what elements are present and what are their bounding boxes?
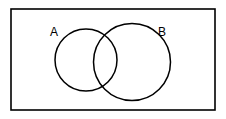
set-label-b: B: [158, 25, 166, 39]
set-label-a: A: [50, 25, 58, 39]
set-circle-a: [55, 29, 117, 91]
venn-diagram-canvas: A B: [0, 0, 226, 119]
venn-diagram-figure: A B: [0, 0, 226, 119]
